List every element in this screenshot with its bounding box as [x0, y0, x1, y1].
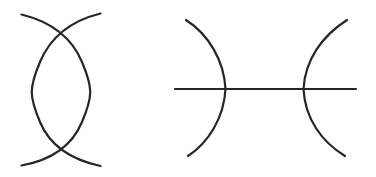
- line-drawing-figure: [0, 0, 376, 177]
